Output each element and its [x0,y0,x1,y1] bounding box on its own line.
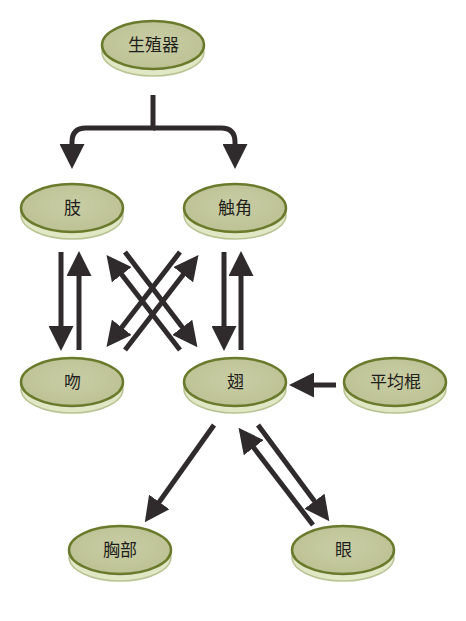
node-proboscis: 吻 [21,358,123,413]
node-label-haltere: 平均棍 [370,372,421,392]
arrows [61,95,336,525]
arrow-wing-to-thorax [150,425,214,515]
node-label-proboscis: 吻 [64,372,81,392]
arrow-genitalia-to-limb [72,95,153,160]
dependency-diagram: 生殖器 肢 触角 吻 翅 平均棍 胸部 眼 [0,0,466,621]
node-label-antenna: 触角 [218,198,252,218]
node-label-limb: 肢 [64,198,81,218]
node-limb: 肢 [21,184,123,239]
node-wing: 翅 [184,358,286,413]
node-antenna: 触角 [184,184,286,239]
node-eye: 眼 [292,526,394,581]
arrow-limb-to-wing [125,252,192,340]
node-label-genitalia: 生殖器 [128,35,179,55]
arrow-genitalia-to-antenna [153,128,235,160]
node-label-thorax: 胸部 [103,540,137,560]
node-genitalia: 生殖器 [102,21,204,76]
node-thorax: 胸部 [69,526,171,581]
node-label-eye: 眼 [335,540,352,560]
arrow-wing-to-limb [112,262,180,350]
node-label-wing: 翅 [227,372,244,392]
node-haltere: 平均棍 [344,358,446,413]
